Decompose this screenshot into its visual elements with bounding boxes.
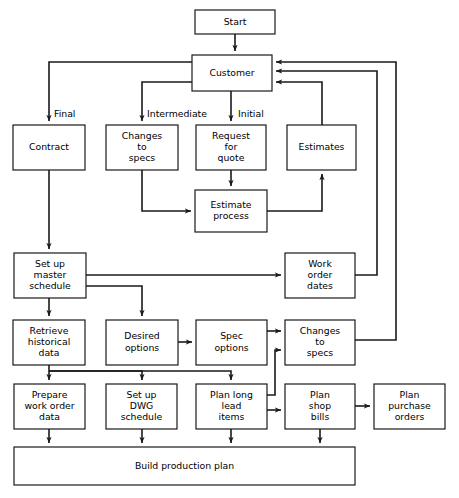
flowchart-diagram: StartCustomerContractChangestospecsReque… xyxy=(0,0,459,498)
node-label-master_schedule: master xyxy=(34,269,67,280)
edge-labels-layer: FinalIntermediateInitial xyxy=(54,108,264,119)
node-label-work_order_dates: order xyxy=(308,269,333,280)
node-label-master_schedule: schedule xyxy=(29,280,71,291)
node-label-plan_shop_bills: shop xyxy=(309,400,331,411)
flow-node-estimates[interactable]: Estimates xyxy=(287,125,356,170)
node-label-changes_specs_top: Changes xyxy=(122,130,163,141)
flow-node-work_order_dates[interactable]: Workorderdates xyxy=(285,253,355,298)
node-label-changes_specs_top: specs xyxy=(129,152,156,163)
node-label-retrieve_hist: Retrieve xyxy=(30,325,69,336)
node-label-contract: Contract xyxy=(29,141,69,152)
node-label-changes_specs_bot: specs xyxy=(307,347,334,358)
flow-edge-master-to-desired-options xyxy=(86,286,142,316)
node-label-spec_options: options xyxy=(214,342,248,353)
flow-edge-changes-specs-to-estimate xyxy=(142,170,191,211)
node-label-request_quote: for xyxy=(225,141,238,152)
node-label-plan_shop_bills: Plan xyxy=(310,389,330,400)
node-label-dwg_schedule: DWG xyxy=(130,400,154,411)
node-label-request_quote: quote xyxy=(218,152,245,163)
node-label-request_quote: Request xyxy=(212,130,250,141)
node-label-changes_specs_bot: Changes xyxy=(300,325,341,336)
node-label-dwg_schedule: Set up xyxy=(126,389,156,400)
node-label-estimates: Estimates xyxy=(299,141,345,152)
node-label-work_order_dates: Work xyxy=(308,258,332,269)
node-label-dwg_schedule: schedule xyxy=(121,411,163,422)
node-label-master_schedule: Set up xyxy=(35,258,65,269)
flow-node-customer[interactable]: Customer xyxy=(192,55,272,91)
flow-node-desired_options[interactable]: Desiredoptions xyxy=(106,320,178,365)
node-label-prepare_wo: work order xyxy=(24,400,74,411)
node-label-estimate_process: process xyxy=(213,210,249,221)
edge-label-final: Final xyxy=(54,108,75,119)
node-label-work_order_dates: dates xyxy=(307,280,333,291)
flow-edge-estimate-to-estimates xyxy=(267,174,322,211)
node-label-prepare_wo: Prepare xyxy=(32,389,68,400)
node-label-changes_specs_top: to xyxy=(137,141,147,152)
node-label-estimate_process: Estimate xyxy=(210,199,251,210)
flow-node-retrieve_hist[interactable]: Retrievehistoricaldata xyxy=(13,320,85,365)
node-label-retrieve_hist: historical xyxy=(28,336,70,347)
node-label-customer: Customer xyxy=(209,67,254,78)
node-label-plan_purchase: purchase xyxy=(388,400,431,411)
flow-node-estimate_process[interactable]: Estimateprocess xyxy=(195,190,267,232)
node-label-retrieve_hist: data xyxy=(39,347,60,358)
flow-node-changes_specs_top[interactable]: Changestospecs xyxy=(106,125,178,170)
flow-node-plan_shop_bills[interactable]: Planshopbills xyxy=(285,384,355,429)
node-label-plan_purchase: Plan xyxy=(400,389,420,400)
node-label-build_plan: Build production plan xyxy=(135,460,234,471)
flow-node-dwg_schedule[interactable]: Set upDWGschedule xyxy=(106,384,177,429)
node-label-spec_options: Spec xyxy=(220,330,243,341)
flow-node-changes_specs_bot[interactable]: Changestospecs xyxy=(285,320,355,365)
node-label-prepare_wo: data xyxy=(39,411,60,422)
flow-node-plan_long_lead[interactable]: Plan longleaditems xyxy=(196,384,267,429)
node-label-desired_options: options xyxy=(125,342,159,353)
edge-label-initial: Initial xyxy=(238,108,264,119)
flow-node-plan_purchase[interactable]: Planpurchaseorders xyxy=(374,384,445,429)
flow-node-request_quote[interactable]: Requestforquote xyxy=(196,125,266,170)
flow-edge-estimates-to-customer xyxy=(276,82,322,125)
flow-edge-plan-long-lead-to-changes xyxy=(267,350,281,395)
flow-node-contract[interactable]: Contract xyxy=(13,125,85,170)
node-label-start: Start xyxy=(224,16,247,27)
flow-edge-retrieve-to-dwg xyxy=(49,371,142,380)
flow-node-build_plan[interactable]: Build production plan xyxy=(14,447,355,485)
flow-node-prepare_wo[interactable]: Preparework orderdata xyxy=(14,384,85,429)
flow-node-start[interactable]: Start xyxy=(195,10,275,34)
edge-label-intermediate: Intermediate xyxy=(147,108,207,119)
nodes-layer: StartCustomerContractChangestospecsReque… xyxy=(13,10,445,485)
node-label-plan_shop_bills: bills xyxy=(311,411,330,422)
flowchart-canvas: StartCustomerContractChangestospecsReque… xyxy=(0,0,459,498)
node-label-plan_purchase: orders xyxy=(395,411,425,422)
flow-edge-work-order-dates-to-customer xyxy=(276,71,377,275)
node-label-changes_specs_bot: to xyxy=(315,336,325,347)
node-label-desired_options: Desired xyxy=(124,330,160,341)
flow-node-spec_options[interactable]: Specoptions xyxy=(196,320,267,365)
node-label-plan_long_lead: Plan long xyxy=(210,389,253,400)
node-label-plan_long_lead: lead xyxy=(222,400,242,411)
node-label-plan_long_lead: items xyxy=(219,411,245,422)
flow-node-master_schedule[interactable]: Set upmasterschedule xyxy=(14,253,86,298)
flow-edge-retrieve-to-plan-long-lead xyxy=(49,371,231,380)
edges-layer xyxy=(49,34,396,443)
